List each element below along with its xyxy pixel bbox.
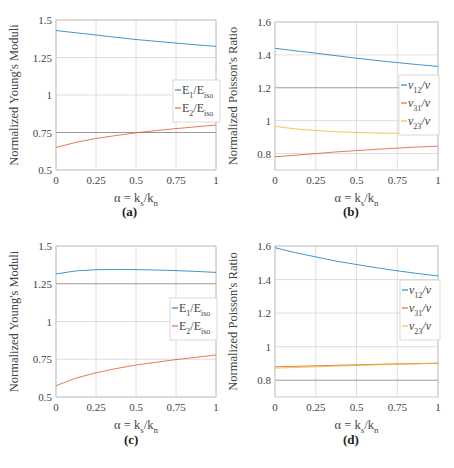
x-tick-label: 0.75 xyxy=(388,174,408,186)
panel-label-d: (d) xyxy=(343,432,359,448)
y-tick-label: 1.2 xyxy=(257,307,271,319)
legend: E1/EisoE2/Eiso xyxy=(170,298,217,340)
x-tick-label: 0 xyxy=(272,174,278,186)
chart-panel-d: 00.250.50.7510.811.21.41.6Normalized Poi… xyxy=(226,240,441,435)
x-tick-label: 1 xyxy=(435,401,441,413)
y-tick-label: 1 xyxy=(266,115,272,127)
y-tick-label: 1 xyxy=(47,89,53,101)
y-tick-label: 1.4 xyxy=(257,274,271,286)
x-tick-label: 0 xyxy=(53,401,59,413)
panel-label-b: (b) xyxy=(343,204,359,220)
chart-panel-c: 00.250.50.7510.50.7511.251.5Normalized Y… xyxy=(7,240,219,435)
chart-canvas: 00.250.50.7510.50.7511.251.5Normalized Y… xyxy=(0,0,454,468)
y-tick-label: 0.75 xyxy=(33,353,53,365)
y-tick-label: 0.5 xyxy=(38,164,52,176)
legend: ν12/νν31/νν23/ν xyxy=(399,75,439,135)
y-axis-label: Normalized Young's Moduli xyxy=(7,24,21,166)
y-tick-label: 1.25 xyxy=(33,278,53,290)
chart-panel-b: 00.250.50.7510.811.21.41.6Normalized Poi… xyxy=(226,16,441,208)
y-tick-label: 0.8 xyxy=(257,148,271,160)
chart-panel-a: 00.250.50.7510.50.7511.251.5Normalized Y… xyxy=(7,14,220,208)
x-tick-label: 0.75 xyxy=(166,401,186,413)
y-tick-label: 1.2 xyxy=(257,82,271,94)
panel-label-c: (c) xyxy=(124,432,138,448)
x-tick-label: 0.5 xyxy=(129,174,143,186)
y-tick-label: 1.5 xyxy=(38,14,52,26)
panel-label-a: (a) xyxy=(122,204,137,220)
y-tick-label: 1.5 xyxy=(38,240,52,252)
x-tick-label: 1 xyxy=(435,174,441,186)
y-tick-label: 1.4 xyxy=(257,49,271,61)
y-tick-label: 1 xyxy=(47,316,53,328)
x-tick-label: 0.25 xyxy=(306,401,326,413)
x-tick-label: 0.25 xyxy=(86,174,106,186)
x-tick-label: 0.5 xyxy=(350,401,364,413)
y-axis-label: Normalized Young's Moduli xyxy=(7,250,21,392)
x-tick-label: 0 xyxy=(53,174,59,186)
x-tick-label: 0.75 xyxy=(166,174,186,186)
y-tick-label: 0.5 xyxy=(38,391,52,403)
x-tick-label: 0.5 xyxy=(129,401,143,413)
y-tick-label: 1.6 xyxy=(257,240,271,252)
x-tick-label: 0.75 xyxy=(388,401,408,413)
legend: ν12/νν31/νν23/ν xyxy=(400,280,440,340)
y-tick-label: 0.8 xyxy=(257,374,271,386)
figure: 00.250.50.7510.50.7511.251.5Normalized Y… xyxy=(0,0,454,468)
y-axis-label: Normalized Poisson's Ratio xyxy=(226,252,240,390)
x-tick-label: 0.5 xyxy=(350,174,364,186)
x-tick-label: 0.25 xyxy=(306,174,326,186)
x-tick-label: 1 xyxy=(213,401,219,413)
x-tick-label: 0 xyxy=(272,401,278,413)
y-tick-label: 1 xyxy=(266,341,272,353)
legend: E1/EisoE2/Eiso xyxy=(173,80,220,122)
x-tick-label: 0.25 xyxy=(86,401,106,413)
y-tick-label: 1.6 xyxy=(257,16,271,28)
x-tick-label: 1 xyxy=(213,174,219,186)
y-tick-label: 0.75 xyxy=(33,127,53,139)
y-tick-label: 1.25 xyxy=(33,52,53,64)
y-axis-label: Normalized Poisson's Ratio xyxy=(226,27,240,165)
